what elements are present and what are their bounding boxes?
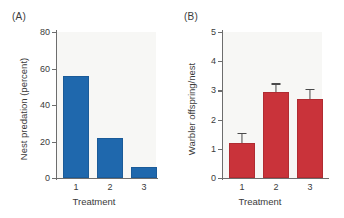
- panel-b: (B) 012345 123 Warbler offspring/nest Tr…: [172, 0, 344, 218]
- error-bar: [241, 134, 242, 143]
- bar: [131, 167, 157, 178]
- bar-fill: [63, 76, 89, 178]
- y-tick-mark: [52, 32, 56, 33]
- x-tick-label: 3: [141, 182, 146, 192]
- error-bar: [309, 90, 310, 99]
- bar: [63, 76, 89, 178]
- error-bar-cap: [238, 133, 247, 134]
- y-tick-mark: [218, 32, 222, 33]
- bar: [97, 138, 123, 178]
- bar-fill: [131, 167, 157, 178]
- error-bar-cap: [306, 89, 315, 90]
- panel-a: (A) 020406080 123 Nest predation (percen…: [0, 0, 172, 218]
- y-tick-mark: [52, 105, 56, 106]
- panel-b-y-axis-line: [222, 30, 223, 180]
- y-tick-mark: [52, 69, 56, 70]
- y-tick-mark: [218, 90, 222, 91]
- bar-fill: [297, 99, 323, 178]
- y-tick-mark: [52, 178, 56, 179]
- panel-b-y-axis-title-wrap: Warbler offspring/nest: [172, 0, 202, 218]
- y-tick-mark: [218, 149, 222, 150]
- panel-a-x-axis-title: Treatment: [8, 196, 180, 207]
- bar-fill: [229, 143, 255, 178]
- panel-a-plot-area: [56, 32, 156, 178]
- bar-fill: [97, 138, 123, 178]
- panel-a-y-axis-title: Nest predation (percent): [18, 34, 29, 184]
- y-tick-mark: [218, 120, 222, 121]
- bar: [297, 99, 323, 178]
- panel-a-y-axis-line: [56, 30, 57, 180]
- bar: [263, 92, 289, 178]
- panel-a-x-axis-line: [55, 178, 158, 179]
- panel-b-x-axis-line: [221, 178, 329, 179]
- panel-b-plot-area: [222, 32, 322, 178]
- y-tick-mark: [218, 61, 222, 62]
- panel-a-bars: [56, 32, 156, 178]
- panel-b-bars: [222, 32, 322, 178]
- x-tick-label: 2: [107, 182, 112, 192]
- panel-b-x-axis-title: Treatment: [174, 196, 344, 207]
- x-tick-label: 1: [239, 182, 244, 192]
- panel-b-y-axis-title: Warbler offspring/nest: [186, 34, 197, 184]
- figure-two-panel-bar-charts: (A) 020406080 123 Nest predation (percen…: [0, 0, 344, 218]
- x-tick-label: 3: [307, 182, 312, 192]
- error-bar-cap: [272, 83, 281, 84]
- y-tick-mark: [218, 178, 222, 179]
- bar: [229, 143, 255, 178]
- panel-a-y-axis-title-wrap: Nest predation (percent): [0, 0, 30, 218]
- x-tick-label: 2: [273, 182, 278, 192]
- y-tick-mark: [52, 142, 56, 143]
- bar-fill: [263, 92, 289, 178]
- error-bar: [275, 85, 276, 92]
- x-tick-label: 1: [73, 182, 78, 192]
